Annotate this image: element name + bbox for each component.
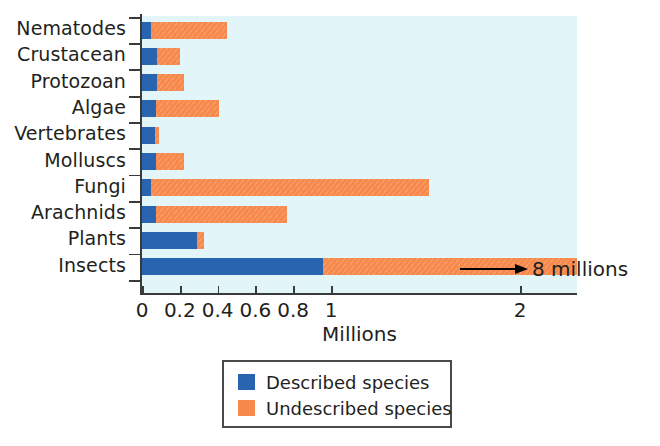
x-axis-label-0.8: 0.8 xyxy=(277,298,309,322)
bar-row-algae xyxy=(0,100,660,117)
bar-segment-undescribed xyxy=(157,74,183,91)
bar-segment-described xyxy=(142,258,323,275)
x-axis-tick xyxy=(293,286,295,295)
y-axis-tick xyxy=(129,43,141,45)
bar-segment-undescribed xyxy=(156,100,218,117)
x-axis-line xyxy=(140,293,577,295)
bar-segment-undescribed xyxy=(156,153,183,170)
bar-segment-described xyxy=(142,22,151,39)
y-axis-tick xyxy=(129,227,141,229)
x-axis-tick xyxy=(331,286,333,295)
bar-segment-described xyxy=(142,74,157,91)
x-axis-tick xyxy=(142,286,144,295)
y-axis-tick xyxy=(129,17,141,19)
x-axis-tick xyxy=(218,286,220,295)
x-axis-label-2: 2 xyxy=(514,298,527,322)
legend-item: Described species xyxy=(238,369,450,395)
x-axis-label-0.2: 0.2 xyxy=(164,298,196,322)
x-axis-title: Millions xyxy=(142,322,577,346)
bar-segment-undescribed xyxy=(156,206,286,223)
bar-row-nematodes xyxy=(0,22,660,39)
x-axis-tick xyxy=(180,286,182,295)
bar-segment-described xyxy=(142,179,151,196)
bar-segment-described xyxy=(142,127,155,144)
bar-segment-undescribed xyxy=(155,127,159,144)
bar-segment-described xyxy=(142,153,156,170)
bar-row-molluscs xyxy=(0,153,660,170)
species-diversity-bar-chart: NematodesCrustaceanProtozoanAlgaeVertebr… xyxy=(0,0,660,446)
bar-row-protozoan xyxy=(0,74,660,91)
legend-label: Undescribed species xyxy=(266,398,452,419)
legend-swatch xyxy=(238,400,255,416)
x-axis-label-0.6: 0.6 xyxy=(239,298,271,322)
arrow-right-icon xyxy=(460,263,528,275)
annotation-label: 8 millions xyxy=(532,257,628,281)
y-axis-tick xyxy=(129,69,141,71)
y-axis-tick-labels: NematodesCrustaceanProtozoanAlgaeVertebr… xyxy=(0,0,126,446)
bar-segment-undescribed xyxy=(197,232,205,249)
legend-label: Described species xyxy=(266,372,430,393)
bar-segment-described xyxy=(142,48,157,65)
x-axis-label-0.4: 0.4 xyxy=(202,298,234,322)
x-axis-label-1: 1 xyxy=(325,298,338,322)
bar-segment-described xyxy=(142,232,197,249)
bar-row-vertebrates xyxy=(0,127,660,144)
bar-segment-undescribed xyxy=(157,48,180,65)
y-axis-tick xyxy=(129,96,141,98)
bar-segment-undescribed xyxy=(151,179,429,196)
y-axis-tick xyxy=(129,122,141,124)
bar-row-plants xyxy=(0,232,660,249)
y-axis-tick xyxy=(129,148,141,150)
bar-row-fungi xyxy=(0,179,660,196)
y-axis-tick xyxy=(129,201,141,203)
bar-segment-undescribed xyxy=(151,22,227,39)
bar-segment-described xyxy=(142,206,156,223)
bar-row-arachnids xyxy=(0,206,660,223)
bar-segment-described xyxy=(142,100,156,117)
y-axis-tick xyxy=(129,280,141,282)
x-axis-tick xyxy=(520,286,522,295)
x-axis-label-0: 0 xyxy=(136,298,149,322)
chart-legend: Described speciesUndescribed species xyxy=(222,360,452,428)
legend-item: Undescribed species xyxy=(238,395,450,421)
y-axis-tick xyxy=(129,254,141,256)
bar-row-crustacean xyxy=(0,48,660,65)
y-axis-tick xyxy=(129,175,141,177)
x-axis-tick xyxy=(255,286,257,295)
legend-swatch xyxy=(238,374,255,390)
insects-annotation: 8 millions xyxy=(460,258,628,280)
